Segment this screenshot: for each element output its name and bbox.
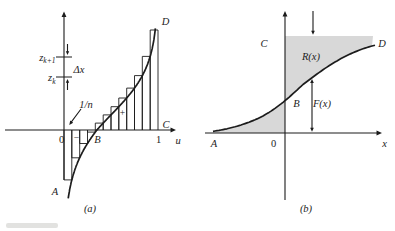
- plus-sign: +: [120, 108, 125, 118]
- point-d-label-a: D: [161, 16, 170, 27]
- minus-sign: −: [74, 133, 79, 143]
- unit-label: 1: [156, 134, 161, 145]
- step-width-label: 1/n: [79, 99, 92, 110]
- origin-label-b: 0: [271, 138, 276, 149]
- point-a-label-a: A: [51, 186, 59, 197]
- shaded-area-region: [213, 36, 373, 133]
- x-axis-label-b: x: [381, 138, 387, 149]
- lower-region-label: F(x): [312, 98, 332, 110]
- point-c-label-b: C: [260, 38, 268, 49]
- caption-a: (a): [84, 203, 97, 215]
- scan-artifact: [6, 223, 58, 228]
- upper-region-label: R(x): [301, 51, 321, 63]
- x-axis-label-a: u: [175, 135, 180, 146]
- panel-a: zk+1 zk Δx 1/n 0 B 1 u C D A − + (a): [0, 0, 195, 231]
- point-c-label-a: C: [162, 119, 170, 130]
- point-d-label-b: D: [377, 38, 386, 49]
- riemann-staircase-bars: [64, 30, 158, 180]
- caption-b: (b): [300, 203, 313, 215]
- figure: zk+1 zk Δx 1/n 0 B 1 u C D A − + (a) C R…: [0, 0, 395, 231]
- tick-label-z-k-plus-1: zk+1: [38, 52, 55, 66]
- panel-b: C R(x) B F(x) A 0 D x (b): [195, 0, 395, 231]
- point-b-label-a: B: [94, 134, 101, 145]
- delta-x-label: Δx: [73, 64, 85, 75]
- point-a-label-b: A: [210, 138, 218, 149]
- origin-label-a: 0: [59, 134, 64, 145]
- point-b-label-b: B: [293, 98, 300, 109]
- tick-label-z-k: zk: [47, 72, 56, 86]
